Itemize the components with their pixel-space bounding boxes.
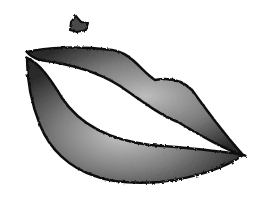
lips-illustration <box>0 0 268 199</box>
beauty-mark-icon <box>70 16 88 32</box>
lips-graphic <box>0 0 268 199</box>
